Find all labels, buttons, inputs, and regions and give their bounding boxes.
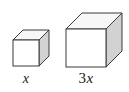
large-cube-label-coefficient: 3: [79, 70, 87, 86]
large-cube-front-face: [66, 29, 106, 67]
small-cube: [13, 30, 49, 66]
large-cube-label-variable: x: [86, 70, 93, 86]
large-cube-label: 3x: [79, 71, 94, 86]
small-cube-front-face: [13, 40, 39, 66]
cubes-drawing: [0, 0, 129, 92]
small-cube-label: x: [23, 72, 30, 86]
small-cube-label-variable: x: [23, 71, 30, 86]
large-cube: [66, 13, 122, 67]
cube-comparison-figure: x 3x: [0, 0, 129, 92]
